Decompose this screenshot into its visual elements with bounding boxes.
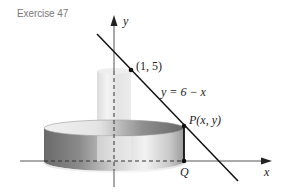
y-axis-arrow-icon: [111, 15, 118, 26]
shell-method-diagram: y x (1, 5) y = 6 − x P(x, y) Q: [0, 0, 287, 194]
y-axis-label: y: [122, 14, 129, 28]
x-axis-arrow-icon: [261, 158, 272, 165]
point-q-label: Q: [180, 165, 189, 179]
point-p: [182, 124, 187, 129]
x-axis-label: x: [263, 165, 270, 179]
point-p-label: P(x, y): [188, 113, 221, 127]
point-q: [182, 159, 187, 164]
point-1-5-label: (1, 5): [136, 59, 162, 73]
equation-label: y = 6 − x: [160, 85, 207, 99]
point-1-5: [129, 68, 134, 73]
